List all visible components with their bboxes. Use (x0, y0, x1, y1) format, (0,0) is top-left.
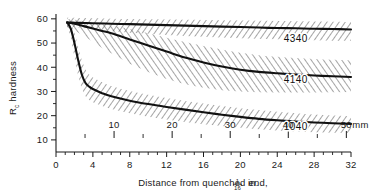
mm-unit-label: mm (352, 119, 368, 130)
y-tick-label: 60 (37, 13, 48, 24)
x-axis-title-fraction-denominator: 16 (234, 185, 242, 191)
mm-tick-label: 30 (225, 119, 236, 130)
x-tick-label: 20 (235, 159, 246, 170)
y-tick-label: 30 (37, 86, 48, 97)
jominy-hardenability-chart: 434043404140414010401040 102030405060048… (0, 0, 376, 195)
y-axis-title-suffix: hardness (7, 61, 18, 105)
x-tick-label: 8 (127, 159, 133, 170)
x-tick-label: 32 (345, 159, 356, 170)
svg-text:16: 16 (234, 185, 242, 191)
y-axis-title-prefix: R (7, 108, 18, 115)
y-tick-label: 40 (37, 62, 48, 73)
series-label-4340: 4340 (284, 33, 308, 44)
mm-tick-label: 20 (167, 119, 178, 130)
x-tick-label: 16 (198, 159, 209, 170)
chart-canvas: 434043404140414010401040 102030405060048… (0, 0, 376, 195)
svg-text:in.: in. (248, 177, 259, 188)
svg-text:Rc hardness: Rc hardness (7, 61, 20, 115)
x-tick-label: 12 (161, 159, 172, 170)
y-tick-label: 10 (37, 134, 48, 145)
mm-tick-label: 50 (341, 119, 352, 130)
y-tick-label: 20 (37, 110, 48, 121)
mm-tick-label: 10 (108, 119, 119, 130)
x-axis-title-suffix: in. (248, 177, 259, 188)
x-tick-label: 24 (272, 159, 283, 170)
y-tick-label: 50 (37, 37, 48, 48)
svg-text:1: 1 (236, 178, 240, 184)
mm-tick-label: 40 (283, 119, 294, 130)
y-axis-title: Rc hardness (7, 61, 20, 115)
x-axis-title-fraction-numerator: 1 (236, 178, 240, 184)
x-tick-label: 0 (53, 159, 59, 170)
x-axis-title: Distance from quenched end, 1 16 in. (138, 177, 268, 191)
series-label-4140: 4140 (284, 74, 308, 85)
x-tick-label: 4 (90, 159, 96, 170)
x-tick-label: 28 (309, 159, 320, 170)
